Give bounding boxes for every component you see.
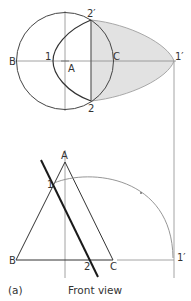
top-view: B 1 A C 1′ 2′ 2 bbox=[9, 8, 184, 278]
label-C-front: C bbox=[110, 261, 117, 272]
arc-marker-dot bbox=[140, 192, 142, 194]
front-view: A 1 B 2 C 1′ bbox=[9, 150, 186, 278]
label-2-top: 2 bbox=[88, 103, 94, 114]
label-2-front: 2 bbox=[84, 261, 90, 272]
section-curve bbox=[53, 20, 91, 101]
label-A-top: A bbox=[68, 63, 75, 74]
label-1prime-top: 1′ bbox=[175, 51, 184, 62]
label-B-top: B bbox=[9, 56, 16, 67]
label-1prime-front: 1′ bbox=[177, 252, 186, 263]
label-A-front: A bbox=[61, 150, 68, 161]
label-2prime-top: 2′ bbox=[87, 8, 96, 19]
cone-section-diagram: B 1 A C 1′ 2′ 2 A 1 B 2 C 1′ (a) Front v… bbox=[0, 0, 191, 301]
rotation-arc bbox=[54, 177, 173, 258]
label-C-top: C bbox=[113, 51, 120, 62]
label-1-front: 1 bbox=[47, 179, 53, 190]
cone-triangle bbox=[16, 162, 113, 260]
caption-label: (a) bbox=[8, 284, 23, 296]
label-1-top: 1 bbox=[45, 51, 51, 62]
caption-title: Front view bbox=[68, 284, 122, 296]
cutting-plane-line bbox=[41, 160, 98, 277]
label-B-front: B bbox=[9, 255, 16, 266]
